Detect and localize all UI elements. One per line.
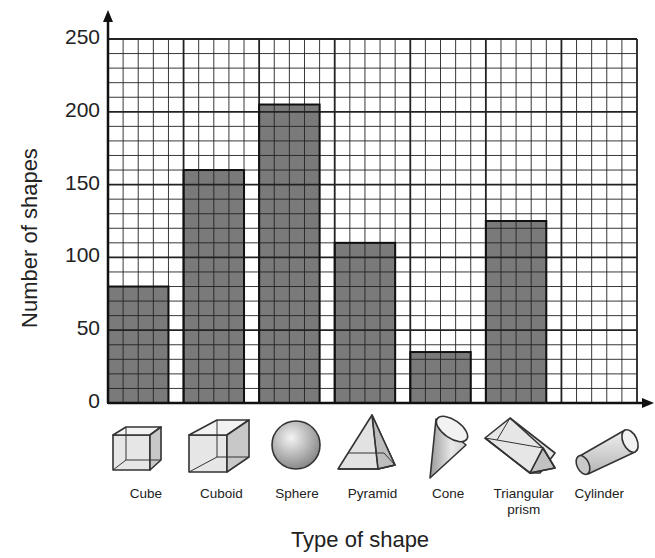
y-axis-arrow-icon xyxy=(103,10,113,22)
cuboid-icon xyxy=(189,420,249,472)
y-tick-label: 150 xyxy=(0,171,100,195)
y-tick-label: 50 xyxy=(0,316,100,340)
y-tick-label: 0 xyxy=(0,389,100,413)
y-tick-label: 250 xyxy=(0,25,100,49)
cone-icon xyxy=(430,411,472,478)
x-axis-label: Type of shape xyxy=(180,527,540,553)
bar-chart xyxy=(0,0,655,558)
category-label: Cylinder xyxy=(554,486,644,502)
y-tick-label: 100 xyxy=(0,243,100,267)
triangular-prism-icon xyxy=(485,418,555,473)
y-axis-label: Number of shapes xyxy=(17,108,43,368)
sphere-icon xyxy=(272,421,320,469)
y-tick-label: 200 xyxy=(0,98,100,122)
shape-icons xyxy=(113,411,641,478)
cube-icon xyxy=(113,427,161,470)
pyramid-icon xyxy=(338,415,395,469)
bars-group xyxy=(108,105,546,403)
x-axis-arrow-icon xyxy=(642,398,654,408)
cylinder-icon xyxy=(573,427,641,476)
bar-outlines xyxy=(108,105,546,403)
